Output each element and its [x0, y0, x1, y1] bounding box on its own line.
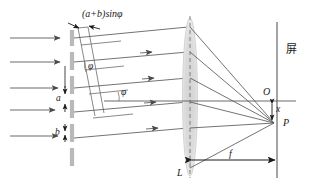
period-connector	[78, 27, 88, 28]
diffracted-ray-arrowheads	[140, 52, 158, 129]
converging-ray-lower	[190, 123, 274, 168]
angle-phi-upper-label: φ	[88, 62, 93, 72]
converging-ray	[190, 27, 274, 123]
incoming-rays-group	[10, 38, 60, 136]
converging-rays-group	[190, 27, 274, 168]
pd-right-arrow	[89, 26, 100, 29]
angle-arc-lower	[118, 92, 119, 101]
wavefront-construction-lines	[78, 27, 133, 118]
pd-left-arrow	[68, 23, 79, 28]
ray-arrowhead	[144, 102, 156, 103]
focal-length-label: f	[229, 149, 232, 159]
focus-point-label: P	[283, 118, 289, 128]
optics-diffraction-figure: (a+b)sinφ φ φ a b L f O P x 屏	[0, 0, 313, 188]
diffracted-ray	[74, 102, 188, 112]
converging-lens	[183, 16, 198, 178]
wavefront-line	[78, 28, 95, 116]
path-difference-dimension	[68, 23, 100, 29]
converging-ray	[190, 78, 274, 123]
period-connector	[81, 41, 121, 45]
ray-arrowhead	[146, 128, 158, 129]
diffracted-ray	[74, 27, 188, 38]
ray-arrowhead	[142, 78, 154, 79]
opaque-width-b-label: b	[55, 128, 60, 138]
ray-arrowhead	[140, 52, 152, 53]
lens-label: L	[177, 168, 183, 178]
optical-center-label: O	[263, 87, 270, 97]
period-connector	[93, 114, 133, 118]
path-difference-label: (a+b)sinφ	[82, 9, 123, 19]
diffracted-ray	[74, 128, 188, 138]
screen-label: 屏	[286, 44, 297, 55]
x-offset-label: x	[276, 105, 280, 115]
diffracted-ray	[74, 78, 188, 88]
converging-ray	[190, 123, 274, 128]
slit-width-a-label: a	[56, 94, 61, 104]
angle-phi-lower-label: φ	[121, 88, 126, 98]
